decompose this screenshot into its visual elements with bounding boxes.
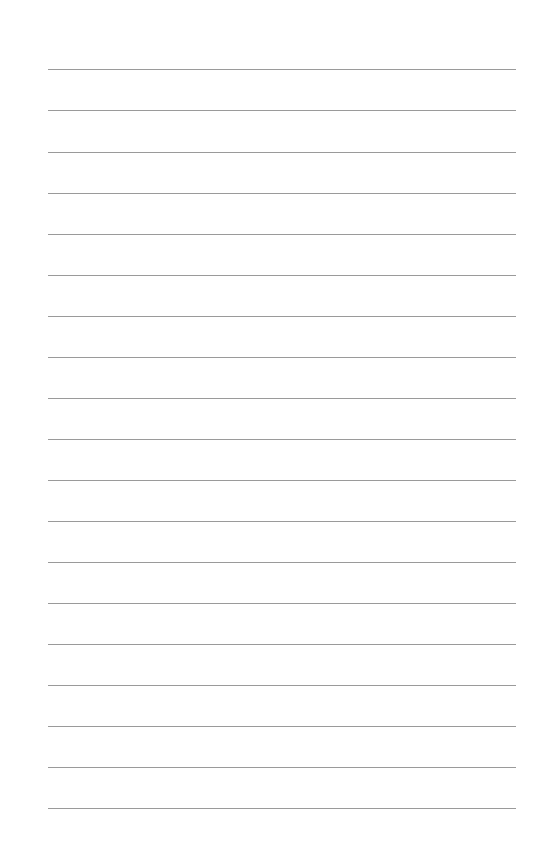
ruled-line xyxy=(48,316,516,317)
ruled-line xyxy=(48,69,516,70)
lined-paper-page xyxy=(0,0,534,862)
ruled-line xyxy=(48,275,516,276)
ruled-line xyxy=(48,562,516,563)
ruled-line xyxy=(48,685,516,686)
ruled-line xyxy=(48,521,516,522)
ruled-line xyxy=(48,110,516,111)
ruled-line xyxy=(48,193,516,194)
ruled-line xyxy=(48,152,516,153)
ruled-line xyxy=(48,357,516,358)
ruled-line xyxy=(48,439,516,440)
ruled-line xyxy=(48,398,516,399)
ruled-line xyxy=(48,767,516,768)
ruled-line xyxy=(48,644,516,645)
ruled-line xyxy=(48,234,516,235)
ruled-line xyxy=(48,603,516,604)
ruled-line xyxy=(48,726,516,727)
ruled-line xyxy=(48,808,516,809)
ruled-line xyxy=(48,480,516,481)
